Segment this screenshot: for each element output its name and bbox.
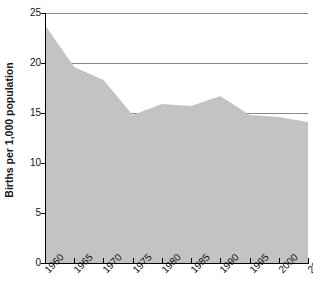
- plot-area: [45, 13, 308, 263]
- y-axis-tick-label: 15: [17, 108, 41, 118]
- y-axis-tick-label: 25: [17, 8, 41, 18]
- area-series-path: [45, 25, 308, 263]
- y-axis-tick-labels: 0510152025: [13, 0, 41, 305]
- area-series-svg: [45, 13, 308, 263]
- y-axis-tick-label: 0: [17, 258, 41, 268]
- y-axis-tick-label: 5: [17, 208, 41, 218]
- y-axis-line: [45, 13, 46, 263]
- y-axis-tick-label: 10: [17, 158, 41, 168]
- birth-rate-area-chart: Births per 1,000 population 0510152025 1…: [0, 0, 313, 305]
- y-axis-tick-label: 20: [17, 58, 41, 68]
